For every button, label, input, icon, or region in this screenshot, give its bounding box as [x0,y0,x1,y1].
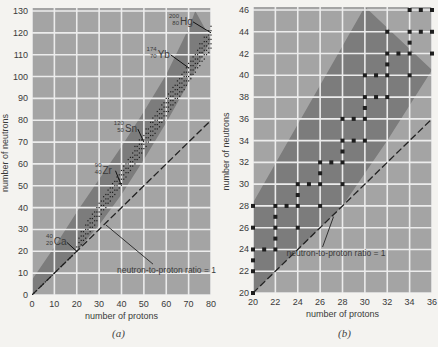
nuclide-point [188,63,189,64]
nuclide-point [170,96,171,97]
nuclide-point [170,100,171,101]
nuclide-point [163,115,164,116]
nuclide-point [172,91,173,92]
nuclide-point [150,122,151,123]
nuclide-point [101,214,102,215]
nuclide-point [159,122,160,123]
nuclide-point [116,185,117,186]
nuclide-point [251,258,255,262]
y-tick-label: 90 [18,93,28,103]
nuclide-point [159,126,160,127]
nuclide-point [110,192,111,193]
nuclide-point [208,48,209,49]
nuclide-point [83,240,84,241]
y-tick-label: 100 [13,72,28,82]
nuclide-point [170,109,171,110]
nuclide-point [154,124,155,125]
nuclide-point [181,91,182,92]
nuclide-point [94,220,95,221]
nuclide-point [408,41,412,45]
nuclide-point [54,273,55,274]
nuclide-point [152,126,153,127]
y-tick-label: 50 [18,181,28,191]
nuclide-point [179,96,180,97]
nuclide-point [150,126,151,127]
nuclide-point [159,109,160,110]
nuclide-point [204,54,205,55]
nuclide-point [132,166,133,167]
nuclide-point [201,43,202,44]
nuclide-point [166,98,167,99]
nuclide-point [204,41,205,42]
nuclide-point [396,52,400,56]
x-tick-label: 36 [427,297,437,307]
nuclide-point [139,144,140,145]
nuclide-point [123,174,124,175]
nuclide-point [154,133,155,134]
nuclide-point [116,190,117,191]
nuclide-point [193,74,194,75]
y-tick-label: 26 [239,223,249,233]
nuclide-point [175,93,176,94]
nuclide-point [251,269,255,273]
x-tick-label: 80 [206,299,216,309]
nuclide-point [141,148,142,149]
nuclide-point [63,264,64,265]
nuclide-point [168,102,169,103]
x-tick-label: 50 [139,299,149,309]
nuclide-point [148,133,149,134]
nuclide-point [92,218,93,219]
nuclide-point [150,135,151,136]
nuclide-point [179,82,180,83]
nuclide-point [125,168,126,169]
nuclide-point [273,215,277,219]
nuclide-point [197,67,198,68]
nuclide-point [123,170,124,171]
nuclide-point [141,139,142,140]
nuclide-point [69,257,70,258]
nuclide-point [166,107,167,108]
nuclide-point [184,80,185,81]
y-tick-label: 80 [18,115,28,125]
nuclide-point [190,78,191,79]
nuclide-point [206,41,207,42]
nuclide-point [107,190,108,191]
nuclide-point [78,238,79,239]
nuclide-point [90,231,91,232]
chart-a-nuclide-stability: 4020Ca9040Zr12050Sn17470Yb20080Hgneutron… [0,6,216,321]
x-tick-label: 20 [72,299,82,309]
nuclide-point [99,211,100,212]
nuclide-point [318,171,322,175]
nuclide-point [157,115,158,116]
nuclide-point [161,109,162,110]
nuclide-point [85,233,86,234]
nuclide-point [114,181,115,182]
y-tick-label: 0 [23,290,28,300]
nuclide-point [40,286,41,287]
nuclide-point [85,238,86,239]
nuclide-point [157,124,158,125]
nuclide-point [38,288,39,289]
nuclide-point [195,67,196,68]
nuclide-point [172,96,173,97]
y-tick-label: 44 [239,27,249,37]
element-symbol: Ca [54,236,67,247]
nuclide-point [121,170,122,171]
nuclide-point [262,247,266,251]
y-tick-label: 46 [239,5,249,15]
nuclide-point [296,204,300,208]
nuclide-point [150,131,151,132]
nuclide-point [92,222,93,223]
nuclide-point [58,268,59,269]
nuclide-point [141,152,142,153]
nuclide-point [341,150,345,154]
nuclide-point [170,104,171,105]
nuclide-point [119,187,120,188]
nuclide-point [204,58,205,59]
nuclide-point [206,45,207,46]
x-tick-label: 70 [184,299,194,309]
nuclide-point [159,117,160,118]
nuclide-point [139,139,140,140]
nuclide-point [159,113,160,114]
nuclide-point [128,172,129,173]
